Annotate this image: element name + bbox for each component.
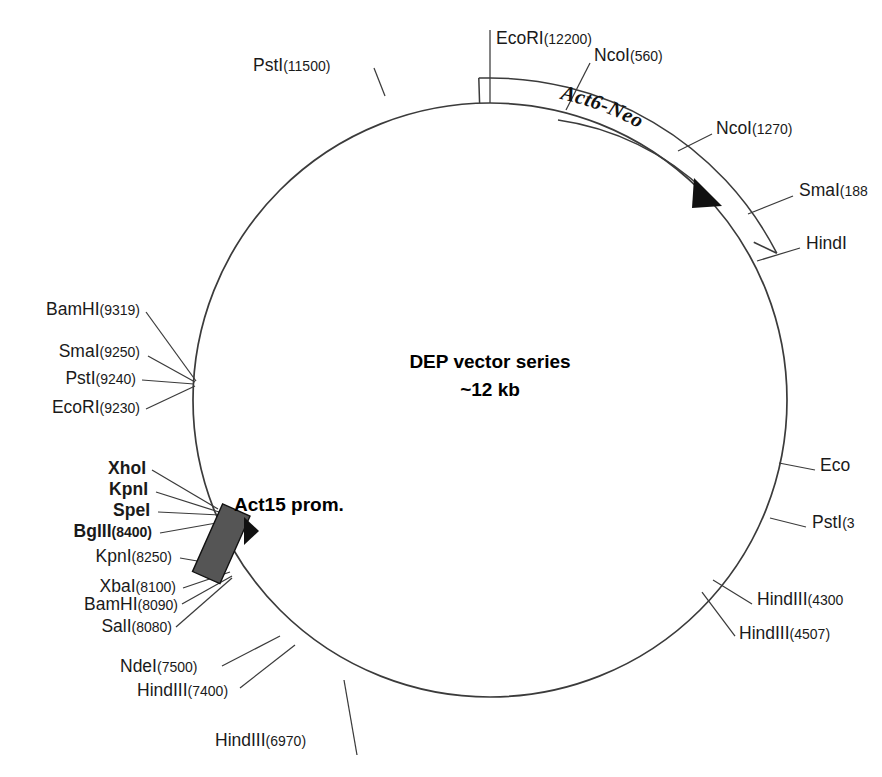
tick-line-pstI-11500	[374, 68, 385, 96]
site-position: (3	[842, 515, 854, 531]
site-label-hindI: HindI	[806, 235, 847, 253]
tick-line-hindIII-4300	[713, 580, 752, 604]
site-position: (7500)	[157, 659, 197, 675]
site-label-hindIII-6970: HindIII(6970)	[215, 732, 306, 750]
plasmid-map-figure: Act6-Neo DEP vector series ~12 kb Act15 …	[0, 0, 882, 777]
tick-line-xhoI-bold	[152, 470, 218, 509]
site-label-xbaI-8100: XbaI(8100)	[0, 578, 176, 596]
site-label-hindIII-4300: HindIII(4300	[757, 591, 843, 609]
tick-line-bamHI-9319	[146, 312, 196, 381]
site-enzyme: HindIII	[215, 730, 266, 750]
site-enzyme: KpnI	[96, 546, 132, 566]
site-label-bamHI-8090: BamHI(8090)	[0, 596, 178, 614]
tick-line-hindIII-6970	[344, 680, 357, 755]
feature-label-act15-prom: Act15 prom.	[234, 494, 344, 516]
tick-line-speI	[158, 512, 220, 515]
site-enzyme: PstI	[65, 368, 95, 388]
site-enzyme: EcoRI	[496, 28, 544, 48]
site-enzyme: NcoI	[716, 118, 752, 138]
tick-line-ndeI-7500	[222, 636, 280, 666]
act6-neo-direction-arrowhead	[692, 178, 722, 208]
site-label-hindIII-7400: HindIII(7400)	[137, 682, 228, 700]
site-position: (9319)	[100, 302, 140, 318]
site-position: (8250)	[132, 549, 172, 565]
site-position: (11500)	[283, 58, 330, 74]
site-label-kpnI-bold: KpnI	[0, 481, 148, 499]
site-label-pstI-11500: PstI(11500)	[253, 57, 330, 75]
tick-line-kpnI-bold	[156, 492, 219, 512]
tick-line-hindIII-4507	[702, 592, 735, 636]
site-label-ncoI-560: NcoI(560)	[594, 47, 663, 65]
site-enzyme: HindIII	[137, 680, 188, 700]
site-label-pstI-9240: PstI(9240)	[0, 370, 136, 388]
site-position: (9240)	[96, 371, 136, 387]
site-enzyme: PstI	[812, 512, 842, 532]
site-enzyme: NdeI	[120, 656, 157, 676]
site-enzyme: SpeI	[113, 500, 150, 520]
site-enzyme: SalI	[101, 616, 131, 636]
site-position: (560)	[630, 48, 663, 64]
act15-promoter-arrowhead	[244, 517, 259, 545]
site-enzyme: SmaI	[799, 180, 840, 200]
site-label-xhoI-bold: XhoI	[0, 460, 146, 478]
act6-neo-band-start-cap	[479, 78, 480, 103]
site-label-bglII-8400: BglII(8400)	[0, 523, 152, 541]
tick-line-ecoRI-9230	[146, 386, 195, 409]
site-position: (7400)	[188, 683, 228, 699]
site-position: (9230)	[100, 400, 140, 416]
site-label-eco-right: Eco	[820, 457, 850, 475]
site-label-speI: SpeI	[0, 502, 150, 520]
site-position: (12200)	[544, 31, 592, 47]
site-enzyme: Eco	[820, 455, 850, 475]
site-position: (9250)	[100, 344, 140, 360]
tick-line-pstI-9240	[142, 380, 194, 384]
site-label-pstI-3xxx: PstI(3	[812, 514, 855, 532]
site-label-ecoRI-12200: EcoRI(12200)	[496, 30, 592, 48]
site-label-bamHI-9319: BamHI(9319)	[0, 301, 140, 319]
site-label-hindIII-4507: HindIII(4507)	[739, 625, 830, 643]
site-enzyme: SmaI	[59, 341, 100, 361]
site-position: (4507)	[790, 626, 830, 642]
site-label-ncoI-1270: NcoI(1270)	[716, 120, 792, 138]
site-enzyme: KpnI	[109, 479, 148, 499]
site-position: (8400)	[112, 524, 152, 540]
site-enzyme: NcoI	[594, 45, 630, 65]
site-enzyme: HindIII	[739, 623, 790, 643]
site-label-ecoRI-9230: EcoRI(9230)	[0, 399, 140, 417]
tick-line-pstI-3xxx	[770, 518, 806, 527]
site-enzyme: XhoI	[108, 458, 146, 478]
site-enzyme: EcoRI	[52, 397, 100, 417]
act6-neo-direction-arc	[558, 120, 706, 192]
site-position: (8100)	[136, 579, 176, 595]
site-label-smaI-188x: SmaI(188	[799, 182, 868, 200]
site-enzyme: BamHI	[84, 594, 137, 614]
center-title-line1: DEP vector series	[340, 348, 640, 376]
site-position: (8080)	[132, 619, 172, 635]
tick-line-hindI	[757, 248, 800, 261]
site-enzyme: HindIII	[757, 589, 808, 609]
site-enzyme: XbaI	[100, 576, 136, 596]
site-enzyme: PstI	[253, 55, 283, 75]
plasmid-center-title: DEP vector series ~12 kb	[340, 348, 640, 403]
site-position: (8090)	[138, 597, 178, 613]
site-label-ndeI-7500: NdeI(7500)	[120, 658, 197, 676]
site-label-salI-8080: SalI(8080)	[0, 618, 172, 636]
site-position: (6970)	[266, 733, 306, 749]
site-position: (188	[840, 183, 868, 199]
site-position: (1270)	[752, 121, 792, 137]
site-label-kpnI-8250: KpnI(8250)	[0, 548, 172, 566]
tick-line-smaI-188x	[748, 196, 793, 214]
site-enzyme: BglII	[74, 521, 112, 541]
site-label-smaI-9250: SmaI(9250)	[0, 343, 140, 361]
tick-line-eco-right	[779, 463, 815, 470]
site-enzyme: BamHI	[46, 299, 99, 319]
center-title-line2: ~12 kb	[340, 376, 640, 404]
site-position: (4300	[808, 592, 844, 608]
tick-line-hindIII-7400	[240, 645, 295, 688]
site-enzyme: HindI	[806, 233, 847, 253]
